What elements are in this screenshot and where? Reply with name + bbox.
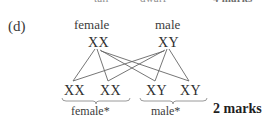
offspring-genotype-1: XX (64, 83, 85, 99)
line-female-to-offspring-3 (100, 50, 155, 81)
offspring-genotype-4: XY (180, 83, 201, 99)
clipped-phenotype-tall: tall (94, 0, 109, 4)
parent-sex-label-male: male (155, 17, 180, 33)
parent-genotype-female: XX (88, 35, 109, 51)
clipped-phenotype-dwarf: dwarf (140, 0, 167, 4)
line-female-to-offspring-2 (97, 49, 108, 81)
group-label-female: female* (71, 104, 110, 119)
exam-question-figure: tall dwarf 4 marks (d) female male XX XY… (0, 0, 277, 119)
line-male-to-offspring-2 (108, 50, 165, 81)
parent-sex-label-female: female (74, 17, 109, 33)
question-part-label: (d) (8, 18, 26, 35)
parent-genotype-male: XY (158, 35, 179, 51)
line-male-to-offspring-3 (155, 49, 167, 81)
group-label-male: male* (151, 104, 180, 119)
line-female-to-offspring-1 (73, 49, 95, 81)
line-male-to-offspring-4 (169, 49, 189, 81)
line-male-to-offspring-1 (73, 51, 164, 81)
line-female-to-offspring-4 (101, 51, 189, 81)
offspring-genotype-3: XY (146, 83, 167, 99)
clipped-marks-label: 4 marks (213, 0, 253, 4)
clipped-top-row: tall dwarf 4 marks (0, 0, 277, 9)
question-marks-label: 2 marks (213, 101, 262, 117)
offspring-genotype-2: XX (100, 83, 121, 99)
